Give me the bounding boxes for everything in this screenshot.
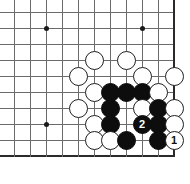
grid-line-horizontal <box>0 28 175 29</box>
star-point <box>140 26 145 31</box>
move-stone-2[interactable]: 2 <box>133 115 152 134</box>
white-stone[interactable] <box>69 99 88 118</box>
white-stone[interactable] <box>85 51 104 70</box>
black-stone[interactable] <box>117 131 136 150</box>
white-stone[interactable] <box>117 51 136 70</box>
grid-line-vertical <box>62 0 63 157</box>
move-stone-1[interactable]: 1 <box>165 131 184 150</box>
star-point <box>44 26 49 31</box>
star-point <box>44 122 49 127</box>
board-edge-bottom <box>0 155 175 157</box>
grid-line-vertical <box>46 0 47 157</box>
stone-number-label: 2 <box>139 119 145 130</box>
go-board-diagram: 21 <box>0 0 190 184</box>
grid-line-vertical <box>14 0 15 157</box>
grid-line-vertical <box>30 0 31 157</box>
white-stone[interactable] <box>69 67 88 86</box>
grid-line-horizontal <box>0 44 175 45</box>
stone-number-label: 1 <box>171 135 177 146</box>
go-board-surface: 21 <box>0 0 190 184</box>
white-stone[interactable] <box>165 67 184 86</box>
grid-line-horizontal <box>0 12 175 13</box>
